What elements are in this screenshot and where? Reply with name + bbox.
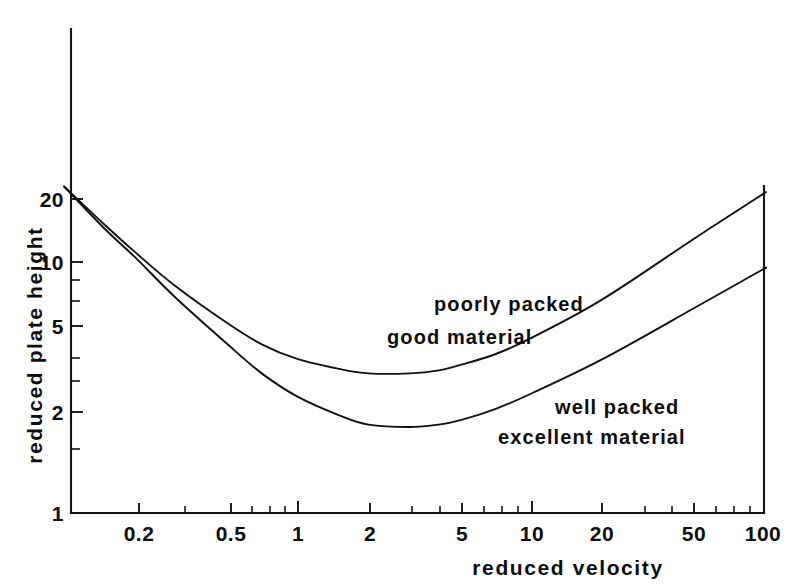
data-curves <box>64 186 766 427</box>
x-tick-label-100: 100 <box>745 522 782 545</box>
y-axis-title: reduced plate height <box>23 226 46 463</box>
chart-svg: poorly packed good material well packed … <box>0 0 799 587</box>
x-tick-label-20: 20 <box>590 522 614 545</box>
x-tick-labels: 0.2 0.5 1 2 5 10 20 50 100 <box>124 522 782 545</box>
x-axis-title: reduced velocity <box>472 556 663 579</box>
y-tick-label-20: 20 <box>40 188 64 211</box>
curve-well-packed <box>64 186 766 427</box>
annotation-well-packed-line1: well packed <box>554 396 679 418</box>
x-tick-label-0-5: 0.5 <box>216 522 247 545</box>
chart-figure: poorly packed good material well packed … <box>0 0 799 587</box>
y-tick-label-5: 5 <box>52 315 64 338</box>
annotation-poorly-packed-line2: good material <box>387 326 532 348</box>
x-tick-label-2: 2 <box>364 522 376 545</box>
x-tick-label-5: 5 <box>456 522 468 545</box>
y-tick-label-1: 1 <box>52 502 64 525</box>
x-axis-ticks <box>139 501 764 513</box>
annotation-well-packed-line2: excellent material <box>498 426 686 448</box>
x-tick-label-0-2: 0.2 <box>124 522 155 545</box>
x-tick-label-10: 10 <box>520 522 544 545</box>
y-axis-ticks <box>71 199 83 449</box>
y-tick-label-2: 2 <box>52 401 64 424</box>
annotation-poorly-packed-line1: poorly packed <box>434 293 584 315</box>
x-tick-label-1: 1 <box>292 522 304 545</box>
x-tick-label-50: 50 <box>682 522 706 545</box>
